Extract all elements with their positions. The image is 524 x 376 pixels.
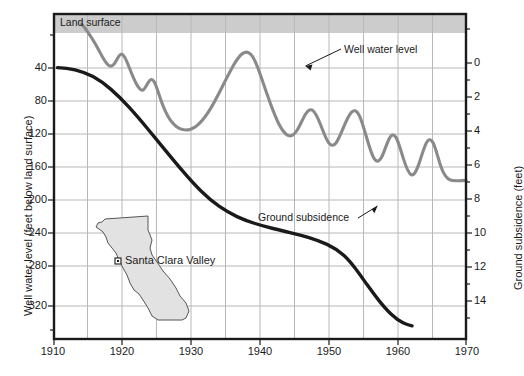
- santa-clara-valley-label: Santa Clara Valley: [125, 254, 215, 266]
- ground-subsidence-curve: [58, 68, 413, 326]
- california-outline-shape: [96, 216, 189, 320]
- well-water-level-annotation-label: Well water level: [344, 43, 417, 55]
- well-water-level-annotation-leader: [306, 49, 342, 70]
- santa-clara-valley-marker-dot: [117, 260, 119, 262]
- land-surface-band-label: Land surface: [60, 16, 121, 28]
- ground-subsidence-annotation-leader: [358, 206, 378, 218]
- california-inset-map: [96, 216, 189, 320]
- ground-subsidence-annotation-label: Ground subsidence: [258, 211, 349, 223]
